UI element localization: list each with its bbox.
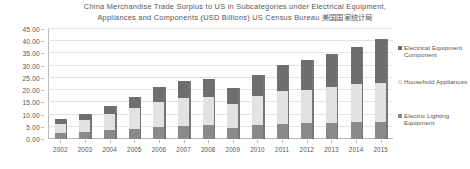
x-axis-tick-label: 2005 [127,146,141,153]
x-axis-tick-mark [381,140,382,143]
x-axis-tick-mark [134,140,135,143]
bar-shadow [263,75,265,139]
bar-segment[interactable] [277,124,288,139]
x-axis-tick-mark [307,140,308,143]
bar-segment[interactable] [326,123,337,139]
bar-segment[interactable] [375,39,386,83]
bar-segment[interactable] [79,120,90,132]
x-axis-tick-mark [257,140,258,143]
bar-stack[interactable] [252,75,263,139]
bar-segment[interactable] [153,127,164,139]
bar-shadow [189,81,191,139]
bar-shadow [238,88,240,139]
x-axis-tick-label: 2008 [201,146,215,153]
bar-segment[interactable] [203,125,214,139]
y-axis-tick-mark [41,102,44,103]
y-axis-tick-label: 40.00 [22,38,40,45]
legend-swatch-icon [398,46,402,50]
bar-shadow [337,54,339,139]
bar-segment[interactable] [301,90,312,124]
x-axis-tick-label: 2003 [78,146,92,153]
bar-segment[interactable] [301,123,312,139]
bar-segment[interactable] [326,54,337,87]
bar-shadow [288,65,290,139]
bar-stack[interactable] [301,60,312,139]
bar-segment[interactable] [252,75,263,96]
bar-stack[interactable] [326,54,337,139]
bar-shadow [386,39,388,139]
x-axis-tick-mark [356,140,357,143]
bar-stack[interactable] [375,39,386,139]
y-axis-tick-mark [41,41,44,42]
y-axis-tick-mark [41,78,44,79]
legend-item[interactable]: Electrical Equipment Component [398,44,470,59]
bar-segment[interactable] [252,96,263,126]
bar-segment[interactable] [252,125,263,139]
x-axis-tick-label: 2002 [53,146,67,153]
bar-stack[interactable] [104,106,115,139]
bar-segment[interactable] [203,97,214,125]
bar-segment[interactable] [203,79,214,98]
x-axis-tick-mark [184,140,185,143]
x-axis-tick-mark [85,140,86,143]
x-axis-tick-label: 2014 [349,146,363,153]
x-axis-tick-label: 2015 [373,146,387,153]
bar-segment[interactable] [178,98,189,125]
chart-container: China Merchandise Trade Surplus to US in… [0,0,470,169]
y-axis-tick-label: 20.00 [22,87,40,94]
bar-segment[interactable] [178,81,189,98]
y-axis-tick-mark [41,53,44,54]
plot-area [48,29,393,139]
bar-segment[interactable] [227,128,238,139]
bar-segment[interactable] [326,87,337,123]
x-axis-tick-mark [233,140,234,143]
legend-item[interactable]: Electric Lighting Equipment [398,112,470,127]
bar-segment[interactable] [104,114,115,130]
bar-segment[interactable] [55,124,66,133]
bar-stack[interactable] [351,47,362,139]
bar-segment[interactable] [153,102,164,127]
x-axis-tick-label: 2004 [102,146,116,153]
y-axis-tick-label: 0.00 [26,136,40,143]
bar-segment[interactable] [129,129,140,139]
y-axis-tick-mark [41,29,44,30]
bar-shadow [90,114,92,139]
bar-stack[interactable] [277,65,288,139]
bar-segment[interactable] [104,130,115,139]
bar-segment[interactable] [375,83,386,122]
bar-segment[interactable] [351,47,362,84]
y-axis: 0.005.0010.0015.0020.0025.0030.0035.0040… [0,29,44,139]
bar-stack[interactable] [79,114,90,139]
bar-stack[interactable] [203,79,214,139]
bar-stack[interactable] [153,87,164,139]
bar-stack[interactable] [55,119,66,139]
bar-segment[interactable] [351,122,362,139]
bar-stack[interactable] [178,81,189,139]
bar-segment[interactable] [227,88,238,104]
bar-segment[interactable] [277,65,288,91]
y-axis-tick-mark [41,66,44,67]
bar-segment[interactable] [153,87,164,102]
bar-segment[interactable] [55,133,66,139]
bar-segment[interactable] [375,122,386,139]
x-axis-tick-label: 2012 [300,146,314,153]
legend-item[interactable]: Household Appliances [398,78,470,85]
bar-segment[interactable] [129,97,140,108]
y-axis-tick-label: 15.00 [22,99,40,106]
x-axis-tick-mark [110,140,111,143]
bar-segment[interactable] [351,84,362,122]
legend-label: Household Appliances [404,78,467,85]
y-axis-tick-label: 25.00 [22,74,40,81]
bar-segment[interactable] [227,104,238,127]
bar-segment[interactable] [178,126,189,139]
bar-stack[interactable] [227,88,238,139]
bar-segment[interactable] [104,106,115,114]
bar-segment[interactable] [301,60,312,89]
chart-legend: Electrical Equipment ComponentHousehold … [398,38,470,150]
bar-stack[interactable] [129,97,140,139]
bar-segment[interactable] [129,108,140,129]
bar-segment[interactable] [277,91,288,124]
y-axis-tick-mark [41,127,44,128]
bar-segment[interactable] [79,132,90,139]
x-axis-tick-label: 2010 [250,146,264,153]
